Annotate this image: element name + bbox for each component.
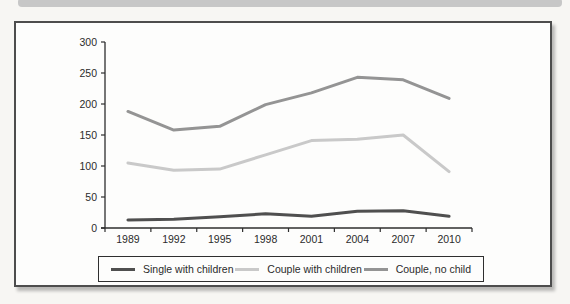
- legend-swatch: [111, 268, 135, 271]
- y-tick-label: 0: [91, 222, 97, 234]
- legend-swatch: [364, 268, 388, 271]
- legend-swatch: [235, 268, 259, 271]
- chart-frame: 0501001502002503001989199219951998200120…: [14, 21, 552, 287]
- x-tick-label: 1998: [254, 233, 278, 245]
- chart-legend: Single with childrenCouple with children…: [98, 256, 484, 282]
- legend-item-single-with-children: Single with children: [111, 263, 233, 275]
- y-tick-label: 300: [79, 36, 97, 48]
- line-chart: 0501001502002503001989199219951998200120…: [16, 23, 550, 255]
- scanned-page: 0501001502002503001989199219951998200120…: [0, 0, 570, 304]
- legend-label: Couple with children: [267, 263, 362, 275]
- y-tick-label: 250: [79, 67, 97, 79]
- legend-label: Single with children: [143, 263, 233, 275]
- x-tick-label: 2004: [346, 233, 370, 245]
- x-tick-label: 1995: [208, 233, 232, 245]
- legend-item-couple-with-children: Couple with children: [235, 263, 362, 275]
- x-tick-label: 1989: [116, 233, 140, 245]
- x-tick-label: 1992: [162, 233, 186, 245]
- legend-label: Couple, no child: [396, 263, 471, 275]
- series-line-single-with-children: [128, 211, 449, 220]
- series-line-couple-with-children: [128, 135, 449, 172]
- y-tick-label: 50: [85, 191, 97, 203]
- y-tick-label: 150: [79, 129, 97, 141]
- series-line-couple-no-child: [128, 77, 449, 130]
- x-tick-label: 2001: [300, 233, 324, 245]
- x-tick-label: 2010: [437, 233, 461, 245]
- top-divider-bar: [18, 0, 562, 7]
- y-tick-label: 200: [79, 98, 97, 110]
- x-tick-label: 2007: [392, 233, 416, 245]
- y-tick-label: 100: [79, 160, 97, 172]
- legend-item-couple-no-child: Couple, no child: [364, 263, 471, 275]
